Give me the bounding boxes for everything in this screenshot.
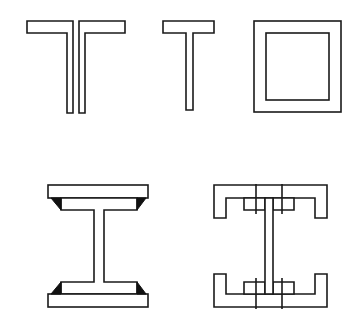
structural-sections-diagram	[0, 0, 350, 324]
weld-top-right	[137, 198, 146, 210]
weld-top-left	[51, 198, 61, 210]
welded-i-beam-section	[48, 185, 148, 307]
built-up-section	[214, 184, 327, 309]
weld-bottom-right	[137, 282, 146, 294]
double-tee-section	[27, 21, 125, 113]
weld-bottom-left	[51, 282, 61, 294]
box-section	[254, 21, 341, 112]
single-tee-section	[163, 21, 214, 110]
